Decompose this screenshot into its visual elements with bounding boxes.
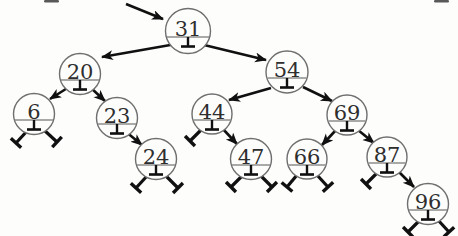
tree-node-23: 23 <box>97 98 138 139</box>
tree-node-69: 69 <box>327 95 367 135</box>
edge-arrow-31-to-20 <box>102 44 176 57</box>
scan-artifact-1 <box>434 0 449 3</box>
edge-arrow-69-to-66 <box>322 130 336 145</box>
edge-arrow-31-to-54 <box>200 44 266 60</box>
node-value-20: 20 <box>67 60 94 84</box>
null-pointer-96-left <box>403 221 419 236</box>
node-value-31: 31 <box>175 17 202 41</box>
null-pointer-47-right <box>261 176 277 192</box>
edge-arrow-87-to-96 <box>398 171 414 187</box>
node-value-66: 66 <box>294 145 321 169</box>
node-value-23: 23 <box>104 104 131 128</box>
null-pointer-66-left <box>282 175 297 191</box>
tree-node-54: 54 <box>266 51 308 93</box>
null-pointer-87-left <box>361 173 377 189</box>
tree-node-66: 66 <box>287 139 327 179</box>
null-pointer-6-right <box>44 130 62 147</box>
scan-artifact-0 <box>44 0 59 3</box>
null-pointer-66-right <box>317 175 333 192</box>
tree-node-96: 96 <box>408 184 449 225</box>
tree-nodes: 31205462344692447668796 <box>14 9 449 225</box>
tree-node-47: 47 <box>231 139 272 180</box>
edge-arrow-entry-to-31 <box>126 4 163 19</box>
edge-arrow-54-to-44 <box>229 88 271 100</box>
tree-node-87: 87 <box>367 137 407 177</box>
bst-figure: 31205462344692447668796 <box>0 0 458 236</box>
node-value-96: 96 <box>415 190 442 214</box>
node-value-54: 54 <box>274 58 301 82</box>
scan-artifacts <box>44 0 449 3</box>
null-pointer-24-right <box>166 176 183 193</box>
edge-arrow-54-to-69 <box>303 87 332 101</box>
tree-node-20: 20 <box>60 54 101 95</box>
tree-node-6: 6 <box>14 94 55 135</box>
node-value-24: 24 <box>143 145 170 169</box>
null-pointer-44-left <box>185 130 201 146</box>
null-pointer-47-left <box>226 176 242 192</box>
node-value-69: 69 <box>334 101 361 125</box>
node-value-47: 47 <box>238 145 265 169</box>
null-pointer-24-left <box>131 176 147 193</box>
tree-node-24: 24 <box>136 139 177 180</box>
node-value-44: 44 <box>199 100 226 124</box>
node-value-6: 6 <box>27 100 40 124</box>
tree-node-31: 31 <box>166 9 211 54</box>
edge-arrow-69-to-87 <box>358 130 374 143</box>
node-value-87: 87 <box>374 143 401 167</box>
tree-node-44: 44 <box>192 94 232 134</box>
bst-diagram: 31205462344692447668796 <box>0 0 458 236</box>
null-pointer-96-right <box>438 220 454 236</box>
